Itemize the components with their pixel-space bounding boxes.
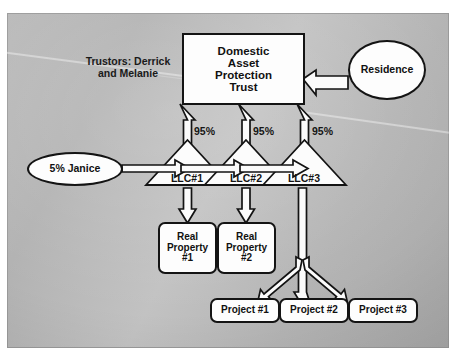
- label-llc3[interactable]: LLC#3: [273, 172, 335, 184]
- screenshot-root: Domestic Asset Protection Trust Residenc…: [0, 0, 456, 356]
- node-janice[interactable]: 5% Janice: [27, 152, 123, 186]
- label-llc2[interactable]: LLC#2: [215, 172, 277, 184]
- janice-label: 5% Janice: [50, 163, 101, 174]
- edge-label-95-llc1: 95%: [194, 125, 215, 137]
- slide-canvas: Domestic Asset Protection Trust Residenc…: [7, 13, 449, 348]
- label-llc1[interactable]: LLC#1: [156, 172, 218, 184]
- edge-label-95-llc2: 95%: [253, 125, 274, 137]
- edge-label-95-llc3: 95%: [312, 125, 333, 137]
